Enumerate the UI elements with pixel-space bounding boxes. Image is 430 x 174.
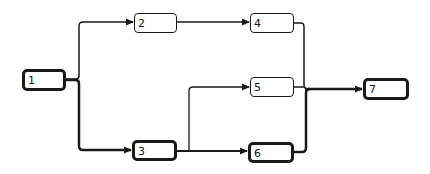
edge-1-3 bbox=[66, 80, 131, 150]
node-7[interactable]: 7 bbox=[363, 78, 409, 100]
network-diagram: 1 2 3 4 5 6 7 bbox=[0, 0, 430, 174]
edge-6-7 bbox=[294, 89, 310, 152]
node-6-label: 6 bbox=[254, 147, 261, 158]
node-3[interactable]: 3 bbox=[132, 140, 177, 161]
node-1[interactable]: 1 bbox=[22, 69, 66, 91]
node-7-label: 7 bbox=[369, 84, 376, 95]
node-4-label: 4 bbox=[254, 18, 261, 29]
edge-3-5 bbox=[189, 87, 249, 151]
node-2[interactable]: 2 bbox=[134, 13, 177, 33]
node-6[interactable]: 6 bbox=[248, 142, 294, 163]
node-3-label: 3 bbox=[138, 145, 145, 156]
node-1-label: 1 bbox=[28, 75, 35, 86]
node-2-label: 2 bbox=[138, 18, 145, 29]
edge-1-2 bbox=[66, 22, 133, 79]
edge-4-7 bbox=[294, 23, 308, 89]
node-5-label: 5 bbox=[254, 82, 261, 93]
node-5[interactable]: 5 bbox=[250, 77, 294, 97]
node-4[interactable]: 4 bbox=[250, 13, 294, 33]
